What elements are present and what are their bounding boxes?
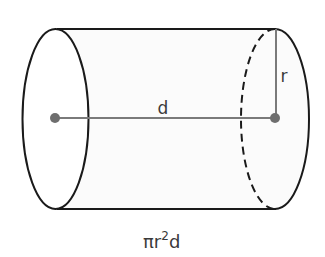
cylinder-diagram: d r πr2d	[0, 0, 325, 257]
formula-exponent: 2	[161, 229, 169, 243]
radius-label: r	[281, 66, 288, 86]
formula-d: d	[169, 231, 180, 252]
length-label: d	[158, 98, 169, 118]
volume-formula: πr2d	[143, 229, 180, 252]
formula-pi-r: πr	[143, 231, 162, 252]
right-center-dot	[270, 113, 280, 123]
left-center-dot	[50, 113, 60, 123]
